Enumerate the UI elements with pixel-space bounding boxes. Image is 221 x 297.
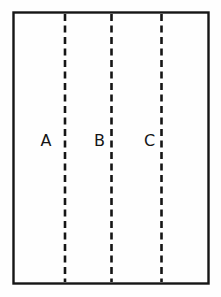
diagram-background (0, 0, 221, 297)
zone-label-b: B (94, 131, 105, 150)
partitioned-rectangle-diagram: A B C (0, 0, 221, 297)
zone-label-a: A (41, 131, 52, 150)
zone-label-c: C (144, 131, 155, 150)
diagram-canvas: A B C (0, 0, 221, 297)
